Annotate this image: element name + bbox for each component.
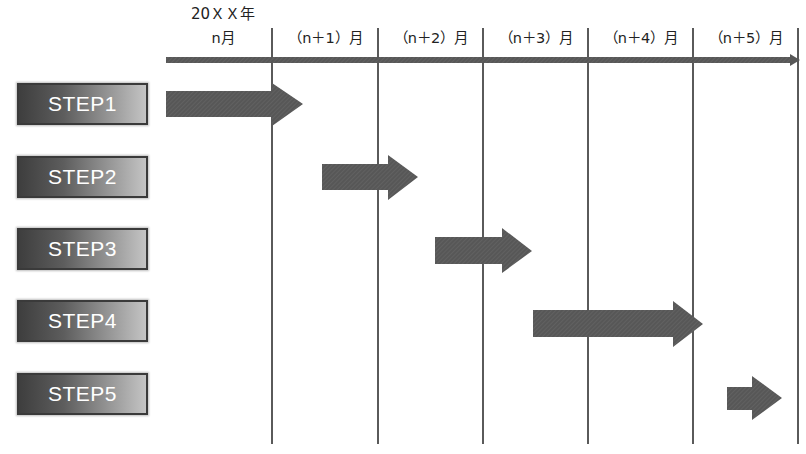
step2-label: STEP2: [17, 156, 148, 198]
timeline-axis-arrow: [166, 54, 800, 66]
step1-arrow: [166, 83, 303, 126]
step1-label: STEP1: [17, 83, 148, 125]
step3-arrow: [435, 228, 532, 273]
step2-arrow: [322, 155, 418, 200]
step5-label: STEP5: [17, 373, 148, 415]
step3-label: STEP3: [17, 228, 148, 270]
step5-arrow: [727, 376, 782, 420]
step4-arrow: [533, 301, 703, 347]
step4-label: STEP4: [17, 300, 148, 342]
